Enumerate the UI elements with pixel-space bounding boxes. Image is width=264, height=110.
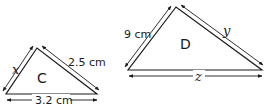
diagram-canvas: x 2.5 cm 3.2 cm C 9 cm y z D xyxy=(0,0,264,110)
base-label-z: z xyxy=(194,69,202,84)
side-label-y: y xyxy=(222,23,231,38)
base-label-3-2cm: 3.2 cm xyxy=(35,94,73,107)
triangle-c-label: C xyxy=(37,70,47,86)
triangle-c-shape xyxy=(6,48,97,94)
side-label-9cm: 9 cm xyxy=(124,28,151,41)
side-label-x: x xyxy=(12,62,20,77)
triangle-d-label: D xyxy=(180,36,191,52)
side-y-arrow xyxy=(181,5,263,65)
triangle-d: 9 cm y z D xyxy=(124,5,263,84)
side-label-2-5cm: 2.5 cm xyxy=(68,56,106,69)
triangle-c: x 2.5 cm 3.2 cm C xyxy=(3,46,106,107)
